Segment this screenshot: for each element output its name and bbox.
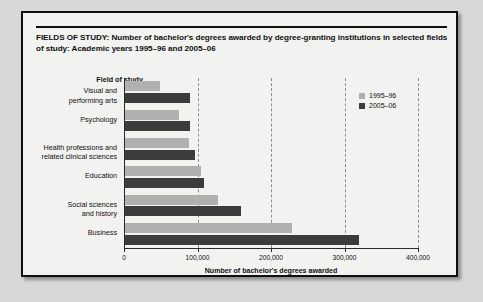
category-label: Psychology (0, 115, 117, 124)
bar-1995-96 (125, 138, 189, 148)
bars-region: 0100,000200,000300,000400,000 Visual and… (124, 78, 418, 248)
bar-2005-06 (125, 178, 204, 188)
x-axis-tick (418, 248, 419, 252)
category-label: Social sciences and history (0, 200, 117, 219)
x-axis-tick-label: 400,000 (406, 254, 430, 261)
x-axis-tick-label: 100,000 (186, 254, 210, 261)
figure-card: FIELDS OF STUDY: Number of bachelor's de… (21, 11, 458, 277)
x-axis-tick (345, 248, 346, 252)
bar-2005-06 (125, 235, 359, 245)
category-label: Business (0, 228, 117, 237)
bar-1995-96 (125, 195, 218, 205)
bar-1995-96 (125, 81, 160, 91)
x-axis-tick (198, 248, 199, 252)
category-label: Health professions and related clinical … (0, 143, 117, 162)
category-row: Education (124, 163, 418, 191)
category-row: Visual and performing arts (124, 78, 418, 106)
gridline (418, 78, 419, 248)
category-row: Health professions and related clinical … (124, 135, 418, 163)
category-label: Visual and performing arts (0, 86, 117, 105)
bar-2005-06 (125, 150, 195, 160)
x-axis-tick (124, 248, 125, 252)
x-axis-tick-label: 300,000 (333, 254, 357, 261)
bar-2005-06 (125, 93, 190, 103)
x-axis-tick (271, 248, 272, 252)
x-axis-tick-label: 200,000 (259, 254, 283, 261)
bar-1995-96 (125, 223, 292, 233)
x-axis-tick-label: 0 (122, 254, 126, 261)
bar-1995-96 (125, 166, 201, 176)
x-axis-title: Number of bachelor's degrees awarded (124, 267, 418, 275)
category-row: Business (124, 220, 418, 248)
category-row: Social sciences and history (124, 191, 418, 219)
bar-2005-06 (125, 121, 190, 131)
plot-area: Field of study 1995–96 2005–06 0100,0002… (23, 13, 460, 279)
category-label: Education (0, 171, 117, 180)
bar-1995-96 (125, 110, 179, 120)
bar-2005-06 (125, 206, 241, 216)
category-row: Psychology (124, 106, 418, 134)
